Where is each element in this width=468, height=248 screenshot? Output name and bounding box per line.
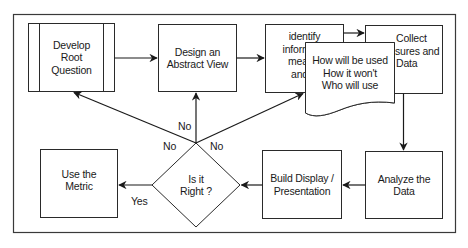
edge-label-no-left: No: [163, 140, 176, 152]
edge-label-yes: Yes: [131, 195, 148, 207]
node-collect-measures: Collect sures and Data: [392, 32, 444, 74]
label-line: Is it: [188, 173, 203, 186]
edge-diamond-to-identify: [196, 94, 303, 144]
label-line: How it won't: [323, 67, 377, 80]
label-line: Use the: [62, 168, 97, 181]
node-design-abstract-view: Design an Abstract View: [159, 25, 236, 91]
label-line: Right ?: [180, 185, 212, 198]
label-line: identify: [289, 30, 321, 43]
node-develop-root-question: Develop Root Question: [40, 24, 103, 91]
label-line: Build Display /: [270, 172, 334, 185]
label-line: Presentation: [274, 185, 331, 198]
label-line: Data: [396, 57, 417, 70]
edge-label-no-up: No: [178, 120, 191, 132]
label-line: Metric: [65, 180, 92, 193]
flowchart-canvas: Develop Root Question Design an Abstract…: [0, 0, 468, 248]
label-line: Design an: [175, 46, 220, 59]
label-line: Root: [61, 51, 82, 64]
node-use-metric: Use the Metric: [41, 150, 117, 210]
label-line: Abstract View: [167, 58, 228, 71]
label-line: Develop: [53, 39, 90, 52]
label-line: Data: [393, 185, 414, 198]
label-line: Who will use: [322, 79, 379, 92]
edge-diamond-to-develop: [74, 93, 196, 144]
label-line: Question: [51, 64, 91, 77]
label-line: Analyze the: [378, 173, 431, 186]
node-build-display: Build Display / Presentation: [263, 151, 341, 218]
label-line: Collect: [396, 32, 427, 45]
edge-label-no-right: No: [210, 140, 223, 152]
node-analyze-data: Analyze the Data: [366, 152, 442, 218]
label-line: sures and: [395, 45, 439, 58]
node-is-it-right: Is it Right ?: [166, 168, 226, 202]
node-usage-note: How will be used How it won't Who will u…: [306, 48, 394, 98]
label-line: How will be used: [312, 54, 388, 67]
